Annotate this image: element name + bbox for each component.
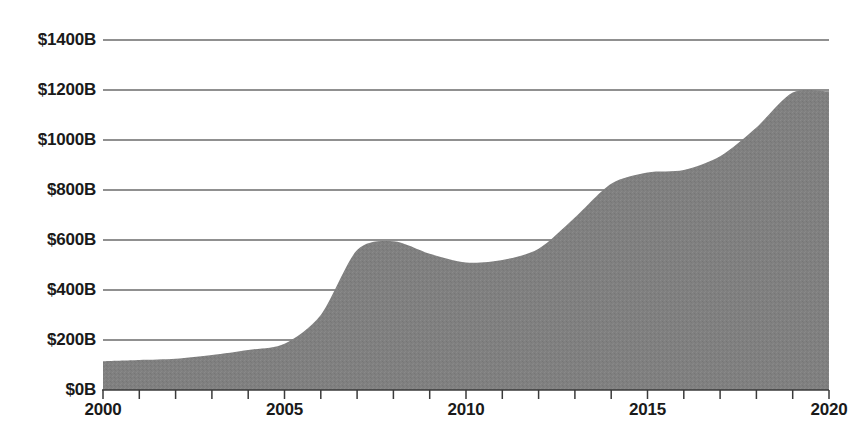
y-axis-tick-label: $0B	[65, 380, 96, 400]
x-axis-tick-label: 2020	[810, 400, 847, 420]
area-chart: $1400B$1200B$1000B$800B$600B$400B$200B$0…	[0, 0, 866, 446]
y-axis-tick-label: $1400B	[38, 30, 96, 50]
x-axis-ticks	[103, 390, 829, 399]
x-axis-tick-label: 2000	[84, 400, 121, 420]
x-axis-tick-label: 2010	[447, 400, 484, 420]
x-axis-tick-label: 2005	[266, 400, 303, 420]
y-axis-tick-label: $1200B	[38, 80, 96, 100]
y-axis-tick-label: $800B	[47, 180, 96, 200]
chart-plot-area	[0, 0, 866, 446]
y-axis-tick-label: $200B	[47, 330, 96, 350]
y-axis-tick-label: $400B	[47, 280, 96, 300]
x-axis-tick-label: 2015	[629, 400, 666, 420]
y-axis-tick-label: $1000B	[38, 130, 96, 150]
y-axis-tick-label: $600B	[47, 230, 96, 250]
